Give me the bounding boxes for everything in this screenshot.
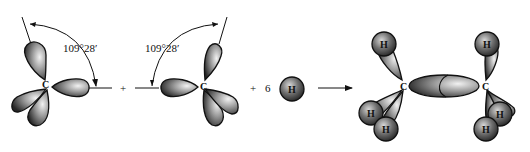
arc-arrowhead-top: [212, 22, 218, 27]
orbital-lobe-top: [25, 42, 46, 80]
ethane-product: C C H H H H H H: [359, 32, 515, 141]
orbital-lobe-left: [161, 79, 198, 97]
hydrogen-label: H: [288, 84, 296, 95]
hydrogen-label: H: [496, 109, 504, 120]
hydrogen-label: H: [482, 124, 490, 135]
angle-label: 109°28′: [63, 42, 97, 54]
hydrogen-atom: H: [475, 32, 499, 56]
plus-sign: +: [120, 82, 126, 94]
hydrogen-atom-reactant: H: [280, 77, 304, 101]
hydrogen-atom: H: [374, 117, 398, 141]
angle-ref-line: [219, 17, 227, 44]
hydrogen-label: H: [367, 108, 375, 119]
carbon-label: C: [42, 79, 49, 90]
hydrogen-label: H: [380, 39, 388, 50]
coefficient: 6: [265, 82, 271, 94]
orbital-lobe-right: [52, 79, 89, 97]
angle-ref-line: [22, 17, 31, 44]
arc-arrowhead-bottom: [150, 80, 154, 86]
ethane-formation-diagram: 109°28′ C + 109°28′ C + 6 H: [0, 0, 530, 152]
right-sp3-carbon: 109°28′ C: [135, 17, 238, 126]
carbon-label: C: [482, 81, 489, 92]
angle-label: 109°28′: [145, 42, 179, 54]
carbon-label: C: [200, 81, 207, 92]
hydrogen-atom: H: [372, 32, 396, 56]
left-sp3-carbon: 109°28′ C: [12, 17, 112, 126]
carbon-label: C: [400, 81, 407, 92]
plus-sign: +: [250, 82, 256, 94]
arc-arrowhead: [30, 22, 36, 27]
hydrogen-label: H: [483, 39, 491, 50]
hydrogen-atom: H: [474, 117, 498, 141]
orbital-lobe-top: [204, 44, 221, 80]
hydrogen-label: H: [382, 124, 390, 135]
